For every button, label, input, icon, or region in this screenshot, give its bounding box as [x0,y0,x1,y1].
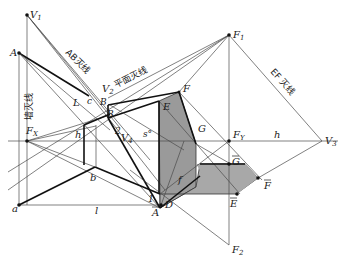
point-Ebar [235,192,239,196]
point-FX [25,139,29,143]
point-D [159,203,163,207]
label-V1: V1 [30,9,42,22]
line-a-b [19,167,95,205]
label-h-left: h [75,129,81,140]
ef-vanishing-line [229,35,322,141]
point-F [178,91,181,94]
label-a: a [12,203,18,214]
label-G: G [198,123,206,134]
label-b: b [90,172,96,183]
label-F: F [182,83,191,94]
point-A [17,51,21,55]
label-V3: V3 [325,135,337,148]
label-D: D [164,199,173,210]
label-num1: 1 [148,194,154,204]
label-Fbar: F [263,180,272,191]
label-wall-vanishing-line: 墙灭线 [23,93,34,120]
label-ab-vanishing-line: AB灭线 [64,47,93,76]
label-Ebar: E [229,198,238,209]
label-num2: 2 [114,126,121,136]
label-l: l [95,205,98,216]
perspective-diagram: V1 A AB灭线 V2 平面灭线 F1 EF 灭线 墙灭线 L c B B E… [0,0,343,260]
label-E: E [162,101,171,112]
label-L: L [72,97,80,108]
label-FY: FY [232,129,246,142]
label-s0: s° [143,129,152,139]
point-V1 [25,13,29,17]
ray-V3-F [258,141,322,178]
ray-F1-left [108,35,229,98]
label-c: c [87,96,92,106]
label-A: A [9,47,17,58]
label-F2: F2 [231,244,244,257]
label-plane-vanishing-line: 平面灭线 [112,64,149,90]
point-Gbar [227,162,231,166]
point-Fbar [256,176,260,180]
label-Gbar: G [232,156,240,167]
label-V2: V2 [102,83,114,96]
label-ef-vanishing-line: EF 灭线 [269,66,298,97]
point-FY [227,139,231,143]
point-F1 [227,33,231,37]
label-h-right: h [274,129,280,140]
label-Abar: A [151,207,159,218]
label-B-upper: B [99,97,107,107]
label-B-lower: B [106,109,114,119]
